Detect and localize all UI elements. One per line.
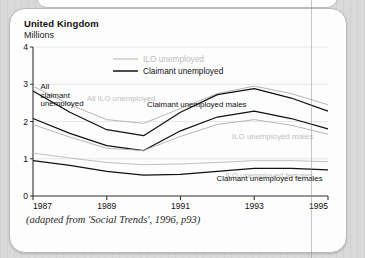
card-above-sliver [36,0,338,8]
y-tick-labels: 01234 [23,42,33,201]
x-tick-label-1991: 1991 [171,201,190,211]
annotation-3: ILO unemployed males [232,132,313,141]
x-tick-label-1989: 1989 [97,201,116,211]
legend-label-1: Claimant unemployed [143,66,224,76]
series-line-2 [33,111,328,150]
annotation-0: All ILO unemployed [87,94,156,103]
y-tick-label-4: 4 [23,42,28,52]
legend-label-0: ILO unemployed [143,54,204,64]
annotation-1: unemployed [41,99,84,108]
chart-legend: ILO unemployedClaimant unemployed [113,54,224,76]
chart-card: United Kingdom Millions 01234 1987198919… [9,8,347,253]
page-background: United Kingdom Millions 01234 1987198919… [0,0,365,258]
series-line-1 [33,89,328,136]
source-caption: (adapted from 'Social Trends', 1996, p93… [26,214,200,225]
y-tick-label-3: 3 [23,79,28,89]
page-fold-line [311,0,312,258]
annotation-2: Claimant unemployed males [147,100,247,109]
annotation-5: Claimant unemployed females [217,174,323,183]
x-tick-labels: 19871989199119931995 [33,196,328,211]
y-tick-label-1: 1 [23,154,28,164]
y-tick-label-2: 2 [23,117,28,127]
x-tick-label-1993: 1993 [245,201,264,211]
y-tick-label-0: 0 [23,191,28,201]
x-tick-label-1987: 1987 [33,201,52,211]
